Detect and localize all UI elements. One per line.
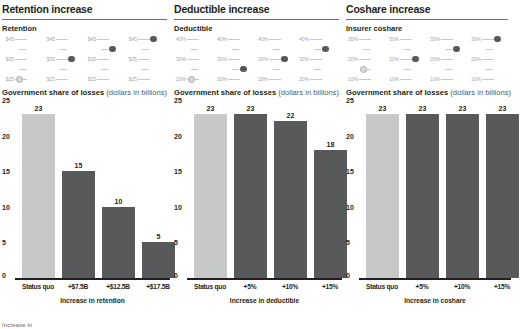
bar-value-label: 5 [142, 233, 175, 240]
slider-handle[interactable] [109, 46, 116, 53]
slider-column[interactable]: 40%30%20% [174, 35, 214, 83]
chart-title-note: (dollars in billions) [278, 88, 339, 97]
slider-column[interactable]: $45$35$25 [2, 35, 42, 83]
slider-column[interactable]: 30%20%10% [469, 35, 509, 83]
bar [62, 171, 95, 278]
title-rule [174, 19, 339, 20]
slider-tick-label: $45 [125, 35, 137, 43]
slider-column[interactable]: $45$35$25 [84, 35, 124, 83]
bar [234, 114, 267, 278]
y-axis-tick-label: 15 [2, 168, 15, 175]
chart-title: Government share of losses (dollars in b… [2, 88, 167, 97]
slider-tick-label: $25 [43, 75, 55, 83]
slider-column[interactable]: $45$35$25 [43, 35, 83, 83]
slider-handle[interactable] [412, 56, 419, 63]
slider-row [43, 65, 83, 73]
slider-row [84, 65, 124, 73]
slider-handle[interactable] [240, 66, 247, 73]
slider-widget[interactable]: $45$35$25$45$35$25$45$35$25$45$35$25 [2, 35, 170, 83]
slider-column[interactable]: 30%20%10% [387, 35, 427, 83]
slider-handle-current[interactable] [188, 76, 195, 83]
y-axis-tick-label: 5 [2, 239, 15, 246]
slider-row [469, 45, 509, 53]
slider-row [346, 65, 386, 73]
slider-handle[interactable] [281, 56, 288, 63]
plot-area: 25201510523232218 [174, 100, 342, 278]
slider-column[interactable]: 30%20%10% [428, 35, 468, 83]
slider-tick-label: 10% [346, 75, 358, 83]
slider-handle[interactable] [322, 46, 329, 53]
slider-tick [101, 49, 108, 50]
slider-row [2, 45, 42, 53]
bar-value-label: 23 [486, 105, 519, 112]
slider-handle-current[interactable] [16, 76, 23, 83]
y-axis-tick-label: 20 [2, 133, 15, 140]
slider-tick-label: $45 [2, 35, 14, 43]
bar-value-label: 23 [366, 105, 399, 112]
bar-value-label: 23 [446, 105, 479, 112]
slider-tick [15, 39, 27, 40]
slider-tick-label: 10% [469, 75, 481, 83]
slider-row: 20% [297, 75, 337, 83]
slider-handle-current[interactable] [360, 66, 367, 73]
bar [314, 150, 347, 278]
slider-label: Insurer coshare [346, 24, 402, 33]
slider-tick [404, 49, 411, 50]
slider-row: $35 [84, 55, 124, 63]
y-axis-tick-label-zero: 0 [2, 272, 6, 279]
slider-tick [363, 49, 370, 50]
slider-tick [187, 59, 199, 60]
slider-row [215, 45, 255, 53]
y-axis-tick-label: 10 [174, 204, 187, 211]
chart-title-main: Government share of losses [174, 88, 276, 97]
slider-handle[interactable] [150, 36, 157, 43]
slider-column[interactable]: 30%20%10% [346, 35, 386, 83]
slider-row: 30% [297, 55, 337, 63]
slider-tick [228, 79, 240, 80]
slider-row: 40% [297, 35, 337, 43]
slider-tick [359, 79, 371, 80]
bar-group: 23232323 [361, 100, 509, 278]
slider-row [125, 45, 165, 53]
slider-row [346, 45, 386, 53]
slider-tick-label: 20% [174, 75, 186, 83]
slider-tick [60, 69, 67, 70]
slider-tick [400, 59, 412, 60]
bar-value-label: 23 [234, 105, 267, 112]
slider-tick [359, 59, 371, 60]
slider-column[interactable]: 40%30%20% [256, 35, 296, 83]
slider-tick-label: 20% [428, 55, 440, 63]
slider-column[interactable]: 40%30%20% [297, 35, 337, 83]
slider-tick [101, 69, 108, 70]
slider-label: Deductible [174, 24, 212, 33]
slider-tick [482, 39, 494, 40]
bar [366, 114, 399, 278]
slider-column[interactable]: 40%30%20% [215, 35, 255, 83]
slider-row [469, 65, 509, 73]
slider-row [84, 45, 124, 53]
slider-tick [359, 39, 371, 40]
slider-column[interactable]: $45$35$25 [125, 35, 165, 83]
slider-handle[interactable] [453, 46, 460, 53]
slider-tick [441, 59, 453, 60]
slider-row [125, 65, 165, 73]
slider-tick [97, 79, 109, 80]
slider-row: 30% [428, 35, 468, 43]
title-rule [346, 19, 508, 20]
slider-tick-label: 20% [387, 55, 399, 63]
slider-tick [441, 79, 453, 80]
slider-tick [486, 69, 493, 70]
y-axis-tick-label: 5 [174, 239, 187, 246]
bar-value-label: 22 [274, 112, 307, 119]
slider-tick [400, 79, 412, 80]
x-axis-title: Increase in retention [15, 297, 170, 304]
bar [102, 207, 135, 278]
slider-widget[interactable]: 40%30%20%40%30%20%40%30%20%40%30%20% [174, 35, 342, 83]
slider-widget[interactable]: 30%20%10%30%20%10%30%20%10%30%20%10% [346, 35, 511, 83]
x-axis-line [187, 278, 342, 280]
slider-handle[interactable] [494, 36, 501, 43]
slider-tick [19, 49, 26, 50]
slider-tick [138, 59, 150, 60]
slider-handle[interactable] [68, 56, 75, 63]
slider-row: 10% [428, 75, 468, 83]
